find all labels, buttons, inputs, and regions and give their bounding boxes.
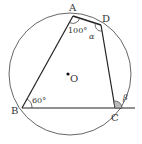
angle-label-a: 100°: [68, 26, 87, 35]
angle-label-beta: β: [122, 93, 128, 102]
side-ab: [22, 16, 73, 108]
label-a: A: [68, 2, 77, 13]
geometry-diagram: A D B C O 100° α 60° β: [0, 0, 142, 144]
label-o: O: [70, 73, 78, 84]
side-ad: [73, 16, 101, 25]
label-c: C: [111, 112, 119, 123]
label-b: B: [11, 105, 18, 116]
side-dc: [101, 25, 115, 108]
label-d: D: [102, 13, 110, 24]
angle-label-alpha: α: [89, 32, 95, 41]
angle-beta-fill: [114, 101, 122, 108]
angle-label-b: 60°: [32, 96, 46, 105]
